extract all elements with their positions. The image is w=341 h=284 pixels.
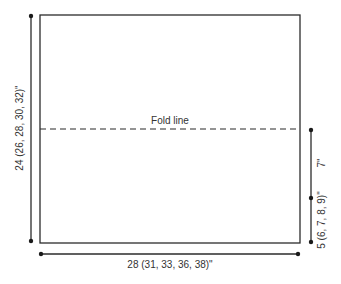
fold-line-label: Fold line — [151, 115, 189, 126]
width-dimension-right-dot — [296, 252, 300, 256]
upper-right-dimension-label: 7" — [316, 158, 327, 168]
right-dimension-top-dot — [309, 128, 313, 132]
right-dimension-middle-dot — [309, 196, 313, 200]
height-dimension-top-dot — [29, 14, 33, 18]
right-dimension-bottom-dot — [309, 240, 313, 244]
lower-right-dimension-label: 5 (6, 7, 8, 9)" — [316, 191, 327, 249]
width-dimension-left-dot — [39, 252, 43, 256]
height-dimension-bottom-dot — [29, 239, 33, 243]
height-dimension-label: 24 (26, 28, 30, 32)" — [14, 85, 25, 171]
schematic-diagram: Fold line 24 (26, 28, 30, 32)" 28 (31, 3… — [0, 0, 341, 284]
width-dimension-label: 28 (31, 33, 36, 38)" — [127, 259, 213, 270]
